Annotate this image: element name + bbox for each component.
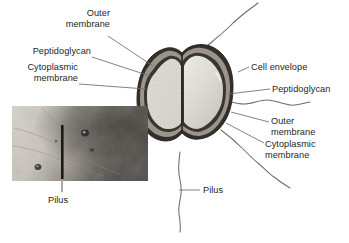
leader-peptidoglycan: [92, 57, 150, 76]
label-pilus-inset: Pilus: [48, 195, 88, 206]
bacterial-cell-envelope-figure: Outer membrane Peptidoglycan Cytoplasmic…: [0, 0, 349, 243]
label-cytoplasmic-membrane-right: Cytoplasmic membrane: [265, 139, 349, 160]
micrograph-image: [12, 106, 148, 181]
pilus-right: [219, 99, 310, 105]
pilus-bottom: [179, 152, 182, 232]
leader-cytoplasmic-right: [226, 123, 264, 143]
label-pilus-center: Pilus: [203, 185, 243, 196]
label-outer-membrane-left: Outer membrane: [50, 8, 110, 29]
label-outer-membrane-right: Outer membrane: [271, 116, 349, 137]
label-peptidoglycan-left: Peptidoglycan: [7, 46, 91, 57]
label-peptidoglycan-right: Peptidoglycan: [272, 84, 349, 95]
leader-cytoplasmic-membrane: [79, 84, 146, 89]
leader-cell-envelope: [238, 67, 249, 72]
leader-peptidoglycan-right: [228, 89, 270, 94]
leader-outer-membrane: [108, 36, 153, 66]
electron-micrograph-inset: [12, 106, 148, 181]
leader-outer-membrane-right: [231, 112, 269, 122]
label-cytoplasmic-membrane-left: Cytoplasmic membrane: [5, 62, 78, 83]
micrograph-scale-bar: [61, 125, 64, 179]
cell-body: [137, 44, 233, 141]
label-cell-envelope: Cell envelope: [251, 62, 346, 73]
